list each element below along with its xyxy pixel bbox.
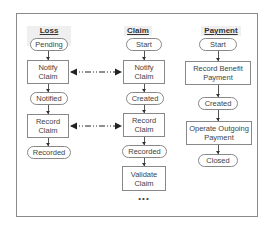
cross-lane-links bbox=[0, 0, 275, 229]
